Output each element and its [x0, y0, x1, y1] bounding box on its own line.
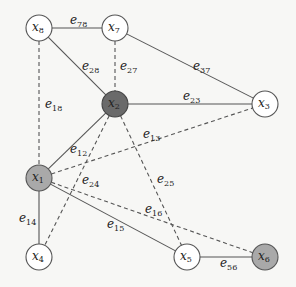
node-x8: x8 — [26, 15, 52, 41]
graph-diagram: e78e28e27e37e23e18e12e13e24e25e14e15e16e… — [0, 0, 296, 287]
node-x3: x3 — [252, 91, 278, 117]
edge-label-e12: e12 — [70, 142, 87, 158]
edge-label-e24: e24 — [82, 173, 99, 189]
edge-label-subscript: 15 — [114, 224, 124, 233]
node-x4: x4 — [26, 244, 52, 270]
edge-label-subscript: 27 — [127, 66, 137, 75]
edge-label-e14: e14 — [19, 211, 36, 227]
edge-label-e56: e56 — [220, 256, 237, 272]
edge-label-subscript: 37 — [200, 66, 210, 75]
edge-label-subscript: 16 — [152, 209, 162, 218]
node-label-subscript: 8 — [39, 26, 44, 35]
edge-label-e16: e16 — [145, 202, 162, 218]
edge-label-subscript: 56 — [227, 263, 237, 272]
edge-label-e78: e78 — [70, 13, 87, 29]
node-label-subscript: 3 — [265, 102, 270, 111]
edge-label-e18: e18 — [45, 97, 62, 113]
edge-e24 — [45, 116, 109, 246]
edge-label-e23: e23 — [183, 89, 200, 105]
edge-labels-layer: e78e28e27e37e23e18e12e13e24e25e14e15e16e… — [19, 13, 237, 272]
edge-label-subscript: 18 — [52, 104, 62, 113]
edge-label-e27: e27 — [120, 59, 137, 75]
node-x7: x7 — [102, 15, 128, 41]
node-x1: x1 — [26, 165, 52, 191]
node-label-subscript: 6 — [265, 255, 270, 264]
edge-label-e28: e28 — [82, 59, 99, 75]
edge-label-subscript: 14 — [26, 218, 36, 227]
graph-svg: e78e28e27e37e23e18e12e13e24e25e14e15e16e… — [0, 0, 296, 287]
node-label-subscript: 5 — [187, 255, 192, 264]
edge-label-subscript: 23 — [190, 96, 200, 105]
node-label-subscript: 7 — [115, 26, 120, 35]
edge-label-e25: e25 — [157, 172, 174, 188]
node-label-subscript: 2 — [115, 102, 120, 111]
edge-label-e37: e37 — [193, 59, 210, 75]
edge-label-subscript: 12 — [77, 149, 87, 158]
node-x2: x2 — [102, 91, 128, 117]
edge-label-e13: e13 — [143, 127, 160, 143]
edge-label-subscript: 24 — [89, 180, 99, 189]
edge-label-subscript: 78 — [77, 20, 87, 29]
edge-label-subscript: 13 — [150, 134, 160, 143]
node-label-subscript: 1 — [39, 176, 44, 185]
edge-label-subscript: 25 — [164, 179, 174, 188]
node-x6: x6 — [252, 244, 278, 270]
edge-label-subscript: 28 — [89, 66, 99, 75]
node-label-subscript: 4 — [39, 255, 44, 264]
node-x5: x5 — [174, 244, 200, 270]
